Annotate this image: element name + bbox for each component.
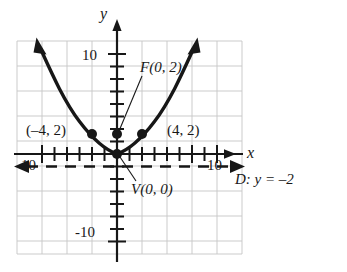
y-axis-tick-label-neg10: -10	[75, 225, 95, 240]
directrix-label: D: y = –2	[235, 172, 294, 187]
x-axis-arrowheads	[224, 149, 236, 159]
point-vertex	[112, 149, 122, 159]
point-left	[87, 129, 97, 139]
y-axis-label: y	[100, 6, 107, 22]
parabola-arrowhead-right	[188, 38, 201, 55]
vertex-leader-line	[120, 157, 136, 181]
x-axis-tick-label-neg10: 10	[21, 158, 36, 173]
point-right-label: (4, 2)	[167, 123, 200, 138]
parabola-figure: y x 10 -10 10 10 F(0, 2) (–4, 2) (4, 2) …	[0, 0, 347, 272]
x-axis-tick-label-10: 10	[207, 158, 222, 173]
point-left-label: (–4, 2)	[26, 123, 66, 138]
point-right	[137, 129, 147, 139]
focus-label: F(0, 2)	[140, 60, 182, 75]
y-axis-arrowhead	[112, 19, 121, 31]
y-axis-tick-label-10: 10	[82, 48, 97, 63]
x-axis-label: x	[247, 145, 254, 161]
point-focus	[112, 129, 122, 139]
x-axis-arrowhead-right	[224, 149, 236, 159]
parabola-arrowhead-left	[34, 38, 47, 55]
vertex-label: V(0, 0)	[131, 182, 173, 197]
